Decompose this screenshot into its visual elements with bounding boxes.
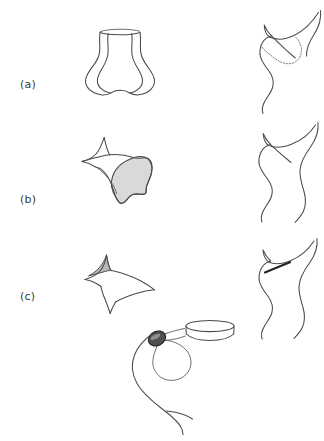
panel-c-left [80,248,166,320]
panel-bottom [130,312,246,440]
panel-c-right [252,238,324,346]
dark-ellipse-node [146,328,168,349]
panel-a-left [78,14,162,106]
four-cusp-shaded-icon [80,132,168,210]
cusped-curve-thick-icon [252,238,324,346]
disk-top-ellipse [186,320,234,331]
curve-node-disk-icon [130,312,246,440]
vase-surface-icon [78,14,162,106]
row-label-a: (a) [20,78,36,91]
panel-a-right [252,10,324,118]
row-label-b: (b) [20,193,36,206]
row-label-c: (c) [20,290,35,303]
cusped-curve-dotted-icon [252,10,324,118]
cusped-curve-plain-icon [252,122,324,228]
figure-canvas: (a) (b) (c) [0,0,324,441]
panel-b-right [252,122,324,228]
panel-b-left [80,132,168,210]
astroid-icon [80,248,166,320]
